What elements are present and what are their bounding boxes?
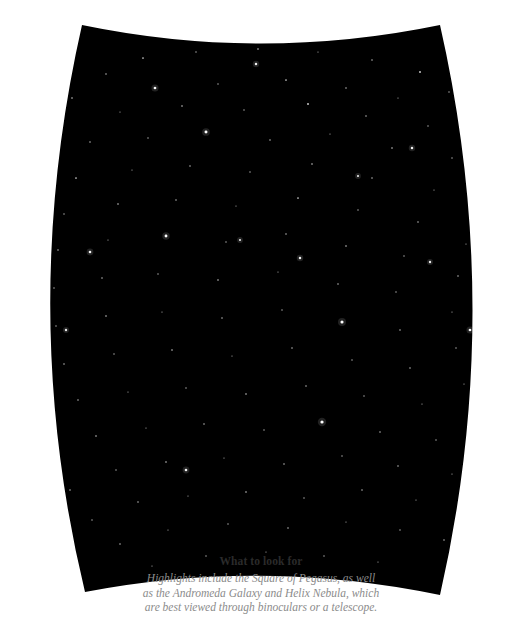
star (53, 287, 54, 288)
star (361, 489, 362, 490)
star (113, 353, 114, 354)
star (221, 317, 222, 318)
star (448, 91, 449, 92)
star (101, 277, 102, 278)
star (185, 469, 188, 472)
star (297, 197, 299, 199)
star (395, 291, 396, 292)
star (63, 213, 64, 214)
star (357, 209, 358, 210)
caption-title: What to look for (0, 553, 522, 569)
star (55, 325, 56, 326)
star (205, 131, 208, 134)
star (231, 355, 232, 356)
star (189, 165, 190, 166)
star (443, 539, 444, 540)
star (105, 315, 107, 317)
star (340, 320, 343, 323)
star (451, 157, 452, 158)
star (391, 147, 393, 149)
star (21, 271, 22, 272)
star (419, 71, 421, 73)
star (115, 469, 116, 470)
star (167, 529, 168, 530)
star (357, 175, 359, 177)
star (465, 507, 466, 508)
star (127, 391, 128, 392)
star (119, 111, 120, 112)
star (435, 439, 436, 440)
star (379, 431, 380, 432)
star (257, 48, 259, 50)
star (142, 57, 144, 59)
star (249, 171, 250, 172)
star (345, 245, 347, 247)
star (119, 543, 120, 544)
star-chart-page: What to look for Highlights include the … (0, 0, 522, 623)
star (185, 387, 186, 388)
star (287, 527, 288, 528)
star (107, 239, 108, 240)
star (175, 199, 176, 200)
star (363, 395, 364, 396)
star (23, 233, 24, 234)
star (397, 97, 398, 98)
star (495, 181, 496, 182)
star (451, 311, 452, 312)
star (433, 189, 434, 190)
star (27, 195, 28, 196)
star (427, 125, 428, 126)
star (57, 249, 58, 250)
star (89, 251, 92, 254)
star (71, 97, 73, 99)
star (75, 177, 77, 179)
star (154, 87, 157, 90)
star (227, 523, 228, 524)
caption-line-2: as the Andromeda Galaxy and Helix Nebula… (0, 586, 522, 601)
star (131, 169, 132, 170)
star (239, 239, 241, 241)
star (217, 83, 218, 84)
star (329, 133, 330, 134)
star (245, 393, 247, 395)
star (469, 329, 472, 332)
sky-background (0, 0, 522, 623)
star (69, 489, 70, 490)
star (305, 385, 306, 386)
star (105, 73, 106, 74)
star (281, 309, 282, 310)
star (37, 159, 39, 161)
star (161, 311, 162, 312)
star (417, 221, 418, 222)
star (365, 115, 366, 116)
star (307, 103, 309, 105)
star (399, 329, 400, 330)
star (320, 420, 323, 423)
star (255, 63, 257, 65)
star (171, 349, 173, 351)
star (317, 51, 318, 52)
star (235, 205, 236, 206)
star (89, 141, 90, 142)
star (51, 455, 52, 456)
star (411, 147, 413, 149)
star (165, 461, 167, 463)
star (187, 495, 188, 496)
star (345, 521, 346, 522)
star (285, 79, 287, 81)
star (137, 501, 138, 502)
star (311, 163, 313, 165)
sky-region (0, 0, 522, 623)
star (269, 139, 270, 140)
star (243, 109, 244, 110)
star (283, 463, 284, 464)
star (225, 241, 226, 242)
star (481, 451, 482, 452)
star (157, 273, 158, 274)
star (165, 235, 168, 238)
sky-chart[interactable] (0, 0, 522, 623)
star (371, 59, 372, 60)
star (451, 473, 452, 474)
star (337, 283, 338, 284)
star (291, 347, 292, 348)
